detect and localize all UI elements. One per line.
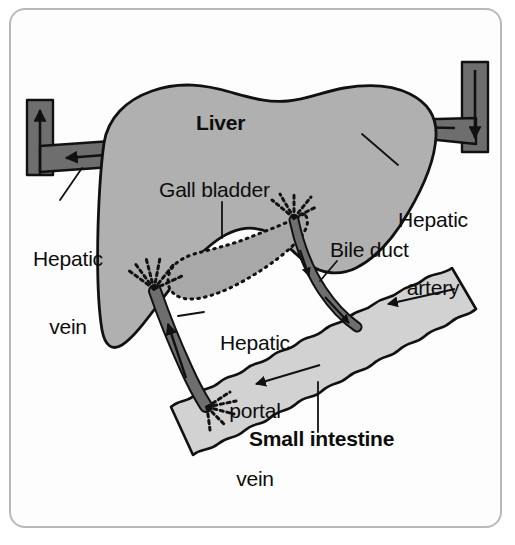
label-bile-duct: Bile duct (330, 239, 409, 262)
label-hepatic-artery-line1: Hepatic (381, 209, 485, 232)
label-hepatic-vein-line2: vein (18, 316, 118, 339)
label-hepatic-portal-vein-line2: portal (206, 400, 304, 423)
label-gall-bladder: Gall bladder (159, 179, 270, 202)
label-hepatic-portal-vein: Hepatic portal vein (206, 287, 304, 536)
label-hepatic-portal-vein-line1: Hepatic (206, 332, 304, 355)
figure-page: Liver Gall bladder Hepatic vein Hepatic … (0, 0, 515, 545)
label-liver: Liver (196, 112, 245, 135)
label-hepatic-portal-vein-line3: vein (206, 468, 304, 491)
label-hepatic-artery-line2: artery (381, 277, 485, 300)
leader-hepatic-portal-vein (178, 312, 204, 316)
leader-hepatic-vein (60, 168, 82, 200)
label-hepatic-vein-line1: Hepatic (18, 248, 118, 271)
label-small-intestine: Small intestine (249, 428, 394, 451)
label-hepatic-vein: Hepatic vein (18, 203, 118, 384)
